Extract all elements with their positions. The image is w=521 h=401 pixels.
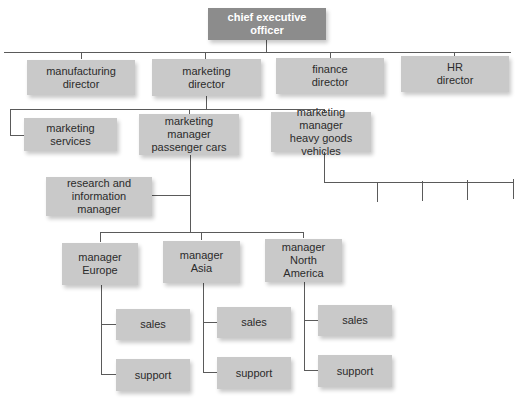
node-label: support — [236, 367, 273, 380]
connector-research — [152, 195, 190, 196]
node-label: research and information manager — [50, 177, 148, 216]
node-label: manager North America — [269, 241, 338, 280]
connector-asia — [201, 232, 202, 240]
node-europe-support: support — [116, 359, 190, 391]
connector-ceo-down — [266, 40, 267, 52]
connector-namerica-sales — [304, 320, 318, 321]
connector-europe-support — [101, 374, 116, 375]
node-label: marketing manager passenger cars — [143, 115, 235, 154]
node-finance-director: finance director — [276, 58, 384, 94]
node-namerica-support: support — [318, 355, 392, 387]
connector-europe-sales — [101, 324, 116, 325]
node-asia-support: support — [217, 357, 291, 389]
node-marketing-services: marketing services — [24, 118, 117, 151]
node-marketing-manager-heavy-goods: marketing manager heavy goods vehicles — [271, 112, 371, 152]
node-label: marketing services — [28, 122, 113, 148]
node-manager-europe: manager Europe — [62, 243, 138, 285]
connector-namerica-support — [304, 370, 318, 371]
node-namerica-sales: sales — [318, 305, 392, 336]
node-manager-north-america: manager North America — [265, 239, 342, 282]
node-label: manager Europe — [78, 251, 121, 277]
node-label: marketing manager heavy goods vehicles — [275, 106, 367, 158]
connector-asia-down — [203, 283, 204, 372]
node-manager-asia: manager Asia — [163, 241, 240, 283]
node-hr-director: HR director — [401, 56, 509, 92]
node-label: sales — [140, 318, 166, 331]
connector-heavy-child-1 — [377, 182, 378, 202]
node-label: sales — [342, 314, 368, 327]
node-label: manufacturing director — [46, 65, 116, 91]
node-manufacturing-director: manufacturing director — [27, 60, 135, 95]
node-label: sales — [241, 316, 267, 329]
node-label: manager Asia — [180, 249, 223, 275]
connector-heavy-child-3 — [467, 180, 468, 200]
connector-heavy-bar — [324, 182, 514, 183]
connector-heavy-child-4 — [513, 179, 514, 199]
connector-europe — [100, 232, 101, 242]
connector-asia-sales — [203, 322, 217, 323]
connector-services-stub — [10, 135, 24, 136]
node-ceo: chief executive officer — [208, 8, 326, 40]
node-label: chief executive officer — [212, 11, 322, 37]
connector-manufacturing — [81, 52, 82, 59]
node-marketing-director: marketing director — [152, 59, 261, 96]
node-europe-sales: sales — [116, 309, 190, 340]
node-label: support — [337, 365, 374, 378]
connector-heavy-child-2 — [422, 181, 423, 201]
connector-europe-down — [101, 285, 102, 374]
node-asia-sales: sales — [217, 307, 291, 338]
connector-marketing-down — [206, 96, 207, 109]
node-label: marketing director — [182, 65, 230, 91]
connector-asia-support — [203, 372, 217, 373]
node-label: finance director — [312, 63, 349, 89]
connector-namerica — [303, 232, 304, 238]
node-research-information-manager: research and information manager — [46, 177, 152, 216]
node-label: support — [135, 369, 172, 382]
node-label: HR director — [437, 61, 474, 87]
connector-passenger-down — [190, 155, 191, 232]
node-marketing-manager-passenger-cars: marketing manager passenger cars — [139, 114, 239, 155]
connector-services-left — [10, 109, 11, 135]
connector-namerica-down — [304, 282, 305, 370]
connector-marketing — [205, 52, 206, 59]
